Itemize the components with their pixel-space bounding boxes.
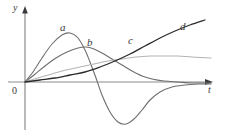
curve-label-a: a	[60, 22, 66, 33]
t-axis-label: t	[208, 85, 211, 95]
curve-d	[25, 20, 205, 82]
y-axis-label: y	[13, 3, 17, 13]
curve-b	[25, 47, 211, 83]
curve-label-b: b	[87, 37, 93, 48]
curve-label-d: d	[180, 21, 186, 32]
y-axis-arrowhead	[22, 6, 28, 14]
curve-label-c: c	[128, 35, 133, 46]
origin-label: 0	[12, 86, 17, 96]
response-curves-figure: y t 0 a b c d	[0, 0, 225, 134]
plot-canvas	[0, 0, 225, 134]
curves-group	[25, 20, 211, 124]
